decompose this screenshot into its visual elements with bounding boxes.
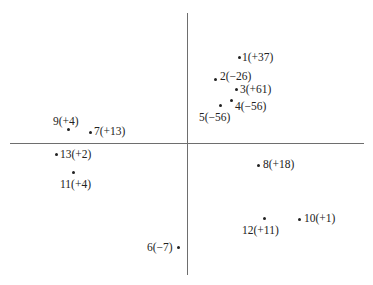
- vertical-axis: [187, 13, 188, 275]
- point-11-marker: [72, 171, 75, 174]
- point-6-label: 6(−7): [147, 241, 173, 253]
- point-5-label: 5(−56): [199, 111, 230, 123]
- point-3-marker: [235, 88, 238, 91]
- point-1-marker: [238, 56, 241, 59]
- point-4-marker: [230, 99, 233, 102]
- point-11-label: 11(+4): [60, 178, 91, 190]
- point-8-label: 8(+18): [263, 158, 294, 170]
- point-5-marker: [219, 104, 222, 107]
- point-6-marker: [177, 246, 180, 249]
- point-12-marker: [263, 217, 266, 220]
- point-13-marker: [55, 153, 58, 156]
- point-9-label: 9(+4): [53, 115, 79, 127]
- point-4-label: 4(−56): [235, 100, 266, 112]
- point-7-marker: [89, 131, 92, 134]
- point-10-label: 10(+1): [304, 212, 335, 224]
- point-7-label: 7(+13): [94, 125, 125, 137]
- quadrant-diagram: 1(+37) 2(−26) 3(+61) 4(−56) 5(−56) 9(+4)…: [0, 0, 373, 285]
- point-1-label: 1(+37): [242, 51, 273, 63]
- point-3-label: 3(+61): [240, 83, 271, 95]
- point-9-marker: [67, 128, 70, 131]
- point-2-label: 2(−26): [220, 70, 251, 82]
- point-8-marker: [257, 164, 260, 167]
- point-10-marker: [298, 218, 301, 221]
- point-13-label: 13(+2): [60, 148, 91, 160]
- point-2-marker: [214, 78, 217, 81]
- point-12-label: 12(+11): [242, 224, 279, 236]
